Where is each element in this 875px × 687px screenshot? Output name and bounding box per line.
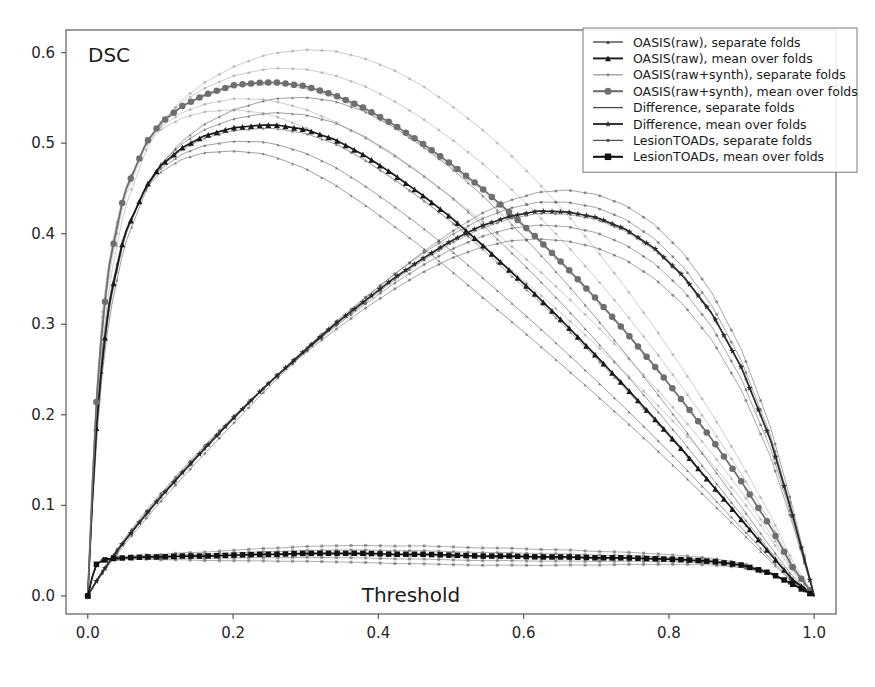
data-point-marker bbox=[686, 294, 689, 297]
data-point-marker bbox=[291, 546, 294, 549]
data-point-marker bbox=[532, 554, 538, 560]
fold-curve-2 bbox=[86, 111, 814, 597]
data-point-marker bbox=[642, 216, 645, 219]
data-point-marker bbox=[569, 564, 572, 567]
legend-item[interactable]: OASIS(raw+synth), mean over folds bbox=[593, 84, 858, 99]
data-point-marker bbox=[247, 406, 250, 409]
data-point-marker bbox=[480, 186, 487, 193]
data-point-marker bbox=[496, 547, 499, 550]
data-point-marker bbox=[299, 83, 306, 90]
data-point-marker bbox=[437, 129, 440, 132]
data-point-marker bbox=[393, 100, 396, 103]
data-point-marker bbox=[352, 551, 358, 557]
data-point-marker bbox=[715, 435, 718, 438]
data-point-marker bbox=[423, 544, 426, 547]
data-point-marker bbox=[744, 470, 747, 473]
data-point-marker bbox=[189, 468, 192, 471]
data-point-marker bbox=[715, 334, 718, 337]
data-point-marker bbox=[408, 279, 411, 282]
data-point-marker bbox=[423, 175, 426, 178]
data-point-marker bbox=[525, 564, 528, 567]
data-point-marker bbox=[554, 232, 557, 235]
data-point-marker bbox=[171, 109, 178, 116]
data-point-marker bbox=[744, 497, 747, 500]
curve-line bbox=[88, 202, 814, 596]
x-tick-label: 0.4 bbox=[366, 624, 390, 642]
data-point-marker bbox=[569, 560, 572, 563]
data-point-marker bbox=[774, 544, 777, 547]
data-point-marker bbox=[497, 201, 504, 208]
data-point-marker bbox=[408, 109, 411, 112]
data-point-marker bbox=[575, 276, 582, 283]
y-tick-label: 0.2 bbox=[31, 406, 55, 424]
data-point-marker bbox=[730, 329, 733, 332]
data-point-marker bbox=[569, 189, 572, 192]
data-point-marker bbox=[703, 429, 710, 436]
data-point-marker bbox=[627, 316, 630, 319]
data-point-marker bbox=[598, 207, 601, 210]
data-point-marker bbox=[266, 551, 272, 557]
data-point-marker bbox=[670, 557, 676, 563]
y-tick-label: 0.3 bbox=[31, 315, 55, 333]
data-point-marker bbox=[554, 201, 557, 204]
data-point-marker bbox=[584, 191, 587, 194]
data-point-marker bbox=[394, 124, 401, 131]
data-point-marker bbox=[196, 94, 203, 101]
data-point-marker bbox=[463, 553, 469, 559]
data-point-marker bbox=[652, 556, 658, 562]
data-point-marker bbox=[334, 93, 341, 100]
data-point-marker bbox=[584, 334, 587, 337]
data-point-marker bbox=[452, 139, 455, 142]
data-point-marker bbox=[247, 98, 250, 101]
data-point-marker bbox=[393, 545, 396, 548]
data-point-marker bbox=[393, 281, 396, 284]
data-point-marker bbox=[452, 256, 455, 259]
data-point-marker bbox=[467, 564, 470, 567]
data-point-marker bbox=[467, 251, 470, 254]
data-point-marker bbox=[627, 261, 630, 264]
data-point-marker bbox=[554, 307, 557, 310]
data-point-marker bbox=[496, 211, 499, 214]
data-point-marker bbox=[320, 71, 323, 74]
data-point-marker bbox=[379, 557, 382, 560]
data-point-marker bbox=[145, 517, 148, 520]
data-point-marker bbox=[379, 562, 382, 565]
data-point-marker bbox=[231, 82, 238, 89]
data-point-marker bbox=[523, 554, 529, 560]
data-point-marker bbox=[364, 556, 367, 559]
data-point-marker bbox=[203, 452, 206, 455]
data-point-marker bbox=[554, 224, 557, 227]
data-point-marker bbox=[798, 575, 805, 582]
data-point-marker bbox=[744, 360, 747, 363]
data-point-marker bbox=[213, 88, 220, 95]
data-point-marker bbox=[189, 92, 192, 95]
data-point-marker bbox=[262, 112, 265, 115]
data-point-marker bbox=[233, 559, 236, 562]
data-point-marker bbox=[377, 551, 383, 557]
data-point-marker bbox=[395, 551, 401, 557]
fold-curve-5 bbox=[86, 108, 814, 597]
data-point-marker bbox=[189, 559, 192, 562]
data-point-marker bbox=[759, 496, 762, 499]
data-point-marker bbox=[420, 552, 426, 558]
data-point-marker bbox=[496, 175, 499, 178]
data-point-marker bbox=[540, 224, 543, 227]
data-point-marker bbox=[686, 375, 689, 378]
data-point-marker bbox=[627, 563, 630, 566]
data-point-marker bbox=[774, 524, 777, 527]
data-point-marker bbox=[598, 281, 601, 284]
data-point-marker bbox=[613, 361, 616, 364]
data-point-marker bbox=[467, 546, 470, 549]
data-point-marker bbox=[452, 222, 455, 225]
data-point-marker bbox=[188, 98, 195, 105]
data-point-marker bbox=[678, 396, 685, 403]
data-point-marker bbox=[584, 244, 587, 247]
data-point-marker bbox=[423, 251, 426, 254]
data-point-marker bbox=[188, 553, 194, 559]
data-point-marker bbox=[510, 217, 513, 220]
data-point-marker bbox=[481, 220, 484, 223]
data-point-marker bbox=[325, 90, 332, 97]
data-point-marker bbox=[276, 100, 279, 103]
data-point-marker bbox=[276, 51, 279, 54]
data-point-marker bbox=[756, 567, 762, 573]
